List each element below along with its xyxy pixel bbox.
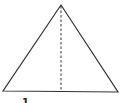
- triangle-diagram: 1: [0, 0, 120, 103]
- diagram-label: 1: [22, 97, 29, 103]
